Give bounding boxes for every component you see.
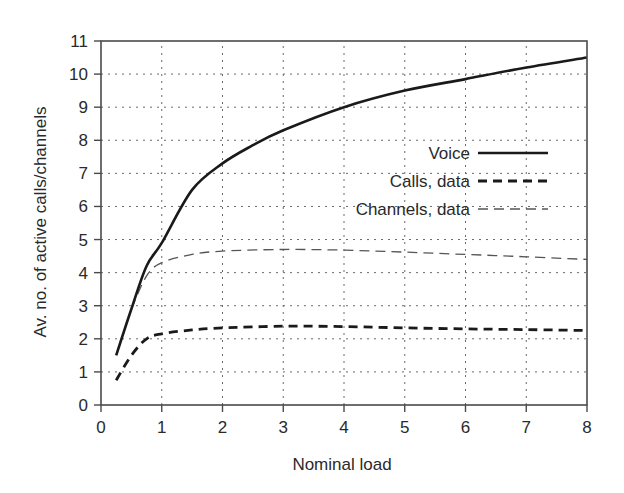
- chart-container: 01234567801234567891011 VoiceCalls, data…: [0, 0, 624, 493]
- legend: VoiceCalls, dataChannels, data: [356, 144, 548, 219]
- y-tick-label: 8: [79, 131, 88, 150]
- legend-label: Channels, data: [356, 200, 471, 219]
- y-tick-label: 11: [70, 32, 88, 51]
- x-tick-label: 5: [400, 418, 409, 437]
- y-tick-label: 3: [79, 297, 88, 316]
- y-tick-label: 5: [79, 231, 88, 250]
- y-tick-label: 4: [79, 264, 88, 283]
- y-tick-label: 10: [69, 65, 88, 84]
- plot-series: [116, 58, 587, 381]
- axes: [94, 41, 587, 412]
- x-tick-label: 7: [522, 418, 531, 437]
- y-tick-label: 7: [79, 164, 88, 183]
- legend-item-voice: Voice: [428, 144, 548, 163]
- legend-item-calls-data: Calls, data: [390, 172, 548, 191]
- legend-label: Voice: [428, 144, 470, 163]
- x-tick-label: 1: [157, 418, 166, 437]
- legend-item-channels-data: Channels, data: [356, 200, 548, 219]
- x-tick-label: 8: [582, 418, 591, 437]
- line-chart: 01234567801234567891011 VoiceCalls, data…: [0, 0, 624, 493]
- y-axis-title: Av. no. of active calls/channels: [31, 107, 50, 338]
- y-tick-label: 9: [79, 98, 88, 117]
- x-tick-label: 2: [218, 418, 227, 437]
- legend-label: Calls, data: [390, 172, 471, 191]
- y-tick-label: 1: [79, 363, 88, 382]
- x-tick-label: 3: [279, 418, 288, 437]
- x-tick-label: 0: [96, 418, 105, 437]
- tick-labels: 01234567801234567891011: [69, 32, 592, 437]
- x-tick-label: 4: [339, 418, 348, 437]
- x-axis-title: Nominal load: [292, 455, 391, 474]
- y-tick-label: 2: [79, 330, 88, 349]
- series-channels-data: [131, 249, 587, 309]
- y-tick-label: 6: [79, 197, 88, 216]
- y-tick-label: 0: [79, 396, 88, 415]
- x-tick-label: 6: [461, 418, 470, 437]
